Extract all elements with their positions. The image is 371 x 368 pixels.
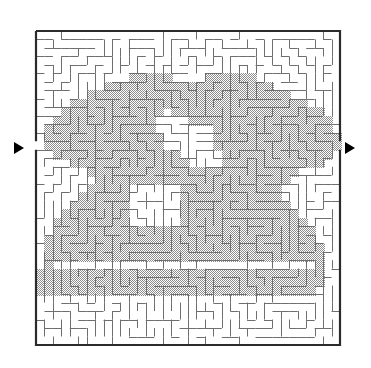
exit-arrow-icon xyxy=(345,142,355,154)
maze-figure: butterfly-silhouette xyxy=(0,0,371,368)
maze-canvas[interactable] xyxy=(0,0,371,368)
entrance-arrow-icon xyxy=(14,142,24,154)
maze-page: butterfly-silhouette xyxy=(0,0,371,368)
